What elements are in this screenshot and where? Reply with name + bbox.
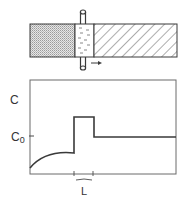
sample-bar bbox=[30, 24, 177, 57]
unrefined-solid-region bbox=[94, 24, 177, 57]
arrow-right-icon bbox=[91, 61, 102, 65]
concentration-curve bbox=[30, 117, 176, 168]
graph-frame bbox=[30, 80, 176, 174]
c0-subscript: 0 bbox=[20, 135, 25, 145]
zone-length-marker bbox=[74, 171, 93, 180]
zone-refining-diagram: C C0 L bbox=[0, 0, 188, 206]
refined-solid-region bbox=[30, 24, 75, 57]
zone-length-label: L bbox=[81, 185, 87, 197]
concentration-graph bbox=[29, 80, 176, 180]
c0-label: C0 bbox=[11, 130, 25, 145]
molten-zone-region bbox=[75, 24, 94, 57]
y-axis-label: C bbox=[10, 93, 19, 107]
